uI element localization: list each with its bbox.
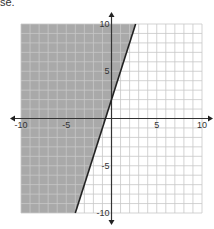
svg-text:5: 5 (154, 120, 159, 130)
svg-text:5: 5 (104, 66, 109, 76)
svg-text:-5: -5 (62, 120, 70, 130)
svg-text:-10: -10 (96, 208, 109, 218)
inequality-graph: -10-5510105-5-10 (0, 0, 214, 229)
svg-text:-5: -5 (101, 161, 109, 171)
svg-text:-10: -10 (14, 120, 27, 130)
svg-text:10: 10 (197, 120, 207, 130)
svg-text:10: 10 (99, 19, 109, 29)
